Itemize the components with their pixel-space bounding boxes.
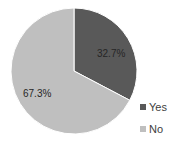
- slice-label-no: 67.3%: [23, 88, 51, 99]
- chart-legend: Yes No: [140, 101, 167, 145]
- legend-item-no: No: [140, 123, 167, 134]
- legend-label-yes: Yes: [149, 101, 167, 113]
- legend-swatch-no: [140, 126, 146, 132]
- legend-label-no: No: [149, 123, 163, 135]
- legend-item-yes: Yes: [140, 101, 167, 112]
- legend-swatch-yes: [140, 104, 146, 110]
- slice-label-yes: 32.7%: [97, 48, 125, 59]
